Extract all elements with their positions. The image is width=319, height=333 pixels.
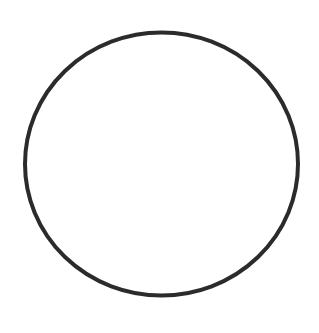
- diagram-canvas: [0, 0, 319, 333]
- background: [0, 0, 319, 333]
